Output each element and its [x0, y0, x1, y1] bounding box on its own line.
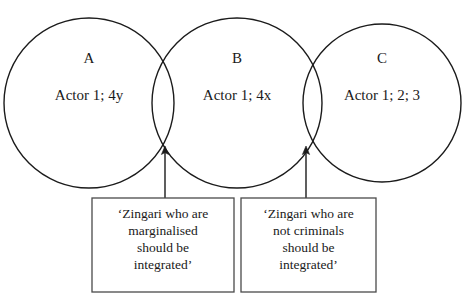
diagram-vector-layer [0, 0, 474, 307]
diagram-canvas: A Actor 1; 4y B Actor 1; 4x C Actor 1; 2… [0, 0, 474, 307]
callout-box-left [92, 198, 234, 292]
callout-box-right [241, 198, 376, 292]
circle-c [303, 24, 461, 182]
circle-a [4, 18, 174, 188]
circle-b [152, 18, 322, 188]
